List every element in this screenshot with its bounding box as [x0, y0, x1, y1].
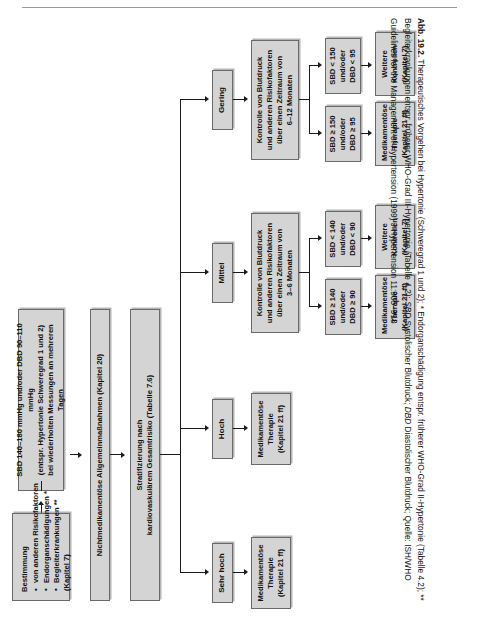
node-nonpharmacologic: Nichtmedikamentöse Allgemeinmaßnahmen (K… — [90, 309, 110, 601]
connector-branch-drop-verylow — [180, 572, 206, 573]
node-bp-high-low: SBD ≥ 150 und/oder DBD ≥ 95 — [325, 106, 361, 162]
node-assessment: Bestimmung von anderen Risikofaktoren En… — [12, 513, 70, 601]
connector-entry-to-assessment — [41, 481, 42, 491]
bp-line-2: und/oder — [338, 223, 347, 255]
node-stratification: Stratifizierung nach kardiovaskulärem Ge… — [130, 309, 160, 601]
monitor-line-4: 3–6 Monaten — [285, 250, 294, 296]
bp-line-2: und/oder — [338, 291, 347, 323]
monitor-line-3: über einen Zeitraum von — [275, 229, 284, 317]
assessment-list: von anderen Risikofaktoren Endorganschäd… — [31, 522, 62, 592]
arrow-medium-high-to-therapy — [368, 304, 372, 310]
therapy-line-1: Medikamentöse — [256, 401, 265, 458]
node-risk-sehr-hoch: Sehr hoch — [212, 543, 233, 603]
abbr-sbd: SBD — [403, 301, 413, 318]
connector-medium-split-bar — [309, 238, 310, 307]
risk-label: Mittel — [217, 248, 228, 298]
bp-line-1: SBD < 150 — [328, 47, 337, 84]
bp-line-3: DBD < 90 — [348, 222, 357, 256]
monitor-line-2: und anderen Risikofaktoren — [265, 50, 274, 150]
arrow-high-to-therapy — [244, 426, 248, 432]
arrow-medium-high-bp — [318, 304, 322, 310]
connector-stratification-drop — [160, 454, 180, 455]
arrow-low-high-to-therapy — [368, 131, 372, 137]
node-entry-criteria: SBD 140–180 mmHg und/oder DBD 90–110 mmH… — [18, 309, 64, 491]
node-monitor-medium: Kontrolle von Blutdruck und anderen Risi… — [251, 213, 299, 333]
arrow-medium-low-bp — [318, 236, 322, 242]
arrow-low-low-to-controls — [368, 63, 372, 69]
bp-line-1: SBD ≥ 150 — [328, 115, 337, 152]
monitor-line-3: über einen Zeitraum von — [275, 56, 284, 144]
node-therapy-high: Medikamentöse Therapie (Kapitel 21 ff) — [251, 393, 291, 465]
bp-line-3: DBD ≥ 90 — [348, 290, 357, 323]
connector-branch-drop-medium — [180, 272, 206, 273]
connector-low-split-bar — [309, 65, 310, 134]
node-risk-gering: Gering — [212, 70, 233, 130]
arrow-low-high-bp — [318, 131, 322, 137]
assessment-item: Begleiterkrankungen ** — [52, 522, 62, 583]
arrow-assessment-to-nonpharma — [78, 452, 82, 458]
figure-caption: Abb. 19.2. Therapeutisches Vorgehen bei … — [375, 18, 427, 618]
bp-line-1: SBD < 140 — [328, 220, 337, 257]
therapy-line-2: Therapie — [266, 413, 275, 445]
stratification-line-2: kardiovaskulärem Gesamtrisiko (Tabelle 7… — [145, 375, 154, 535]
node-risk-hoch: Hoch — [212, 399, 233, 459]
bp-line-3: DBD < 95 — [348, 49, 357, 83]
bp-line-2: und/oder — [338, 118, 347, 150]
node-bp-low-medium: SBD < 140 und/oder DBD < 90 — [325, 211, 361, 267]
therapy-line-3: (Kapitel 21 ff) — [276, 405, 285, 453]
node-risk-mittel: Mittel — [212, 243, 233, 303]
arrow-low-to-monitor — [244, 97, 248, 103]
arrow-medium-to-monitor — [244, 270, 248, 276]
assessment-subnote: (Kapitel 7) — [62, 522, 72, 592]
connector-branch-drop-high — [180, 428, 206, 429]
figure-caption-label: Abb. 19.2. — [416, 18, 426, 57]
monitor-line-4: 6–12 Monaten — [285, 75, 294, 125]
connector-risk-bus — [180, 100, 181, 573]
assessment-item: von anderen Risikofaktoren — [31, 522, 41, 583]
monitor-line-1: Kontrolle von Blutdruck — [255, 57, 264, 144]
connector-assessment-to-nonpharma — [70, 454, 78, 455]
assessment-item: Endorganschädigungen * — [42, 522, 52, 583]
entry-line-3: bei wiederholten Messungen an mehreren T… — [46, 324, 65, 476]
therapy-line-1: Medikamentöse — [256, 545, 265, 602]
node-bp-high-medium: SBD ≥ 140 und/oder DBD ≥ 90 — [325, 279, 361, 335]
risk-label: Gering — [217, 75, 228, 125]
connector-medium-split-drop — [299, 272, 309, 273]
arrow-medium-low-to-controls — [368, 236, 372, 242]
therapy-line-3: (Kapitel 21 ff) — [276, 549, 285, 597]
stratification-line-1: Stratifizierung nach — [135, 420, 144, 491]
node-bp-low-low: SBD < 150 und/oder DBD < 95 — [325, 38, 361, 94]
arrow-low-low-bp — [318, 63, 322, 69]
bp-line-3: DBD ≥ 95 — [348, 117, 357, 150]
node-therapy-very-high: Medikamentöse Therapie (Kapitel 21 ff) — [251, 537, 291, 609]
abbr-sbd-text: Systolischer Blutdruck; — [403, 318, 413, 407]
connector-branch-drop-low — [180, 99, 206, 100]
entry-line-2: (entspr. Hypertonie Schweregrad 1 und 2) — [36, 325, 45, 475]
risk-label: Hoch — [217, 404, 228, 454]
arrow-nonpharma-to-stratification — [121, 452, 125, 458]
abbr-dbd: DBD — [403, 407, 413, 425]
arrow-verylow-to-therapy — [244, 570, 248, 576]
therapy-line-2: Therapie — [266, 557, 275, 589]
arrow-branch-low — [205, 97, 209, 103]
bp-line-1: SBD ≥ 140 — [328, 288, 337, 325]
arrow-branch-high — [205, 426, 209, 432]
monitor-line-2: und anderen Risikofaktoren — [265, 223, 274, 323]
entry-line-1: SBD 140–180 mmHg und/oder DBD 90–110 mmH… — [15, 323, 34, 477]
arrow-branch-medium — [205, 270, 209, 276]
bp-line-2: und/oder — [338, 50, 347, 82]
node-monitor-low: Kontrolle von Blutdruck und anderen Risi… — [251, 40, 299, 160]
arrow-branch-verylow — [205, 570, 209, 576]
monitor-line-1: Kontrolle von Blutdruck — [255, 230, 264, 317]
nonpharma-label: Nichtmedikamentöse Allgemeinmaßnahmen (K… — [95, 314, 105, 596]
connector-low-split-drop — [299, 99, 309, 100]
assessment-header: Bestimmung — [20, 522, 30, 592]
risk-label: Sehr hoch — [217, 548, 228, 598]
flowchart-figure: SBD 140–180 mmHg und/oder DBD 90–110 mmH… — [0, 0, 420, 631]
